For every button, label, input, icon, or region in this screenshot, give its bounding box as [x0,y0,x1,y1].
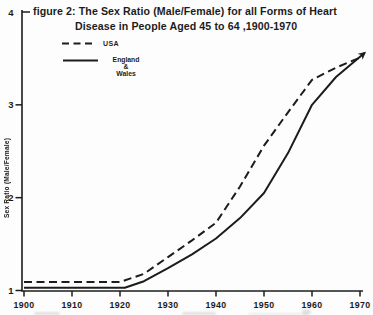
x-tick-label: 1950 [253,300,274,310]
chart-plot-area: 123419001910192019301940195019601970 [0,0,373,315]
series-line-england-wales [24,53,365,288]
x-tick-label: 1920 [109,300,130,310]
x-tick-label: 1970 [349,300,370,310]
x-tick-label: 1900 [13,300,34,310]
x-tick-label: 1940 [205,300,226,310]
y-tick-label: 3 [8,99,13,110]
series-line-usa [24,57,362,283]
x-tick-label: 1930 [157,300,178,310]
axis-line [22,10,363,291]
scanned-chart-page: figure 2: The Sex Ratio (Male/Female) fo… [0,0,373,315]
axes-layer: 123419001910192019301940195019601970 [8,7,370,310]
x-tick-label: 1910 [61,300,82,310]
series-layer [24,53,365,288]
y-tick-label: 4 [8,7,14,18]
y-tick-label: 1 [8,285,14,296]
x-tick-label: 1960 [301,300,322,310]
y-tick-label: 2 [8,192,13,203]
